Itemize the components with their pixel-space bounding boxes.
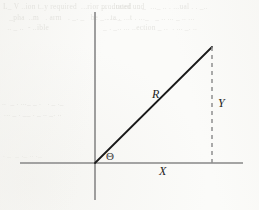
label-angle-theta: Θ xyxy=(106,150,114,162)
label-hypotenuse-r: R xyxy=(152,87,159,102)
label-horizontal-leg-x: X xyxy=(159,164,166,179)
trigonometry-diagram: L_ V ..ion t..y required ...rior produce… xyxy=(0,0,259,210)
label-vertical-leg-y: Y xyxy=(218,96,225,111)
hypotenuse-line-r xyxy=(95,47,212,163)
